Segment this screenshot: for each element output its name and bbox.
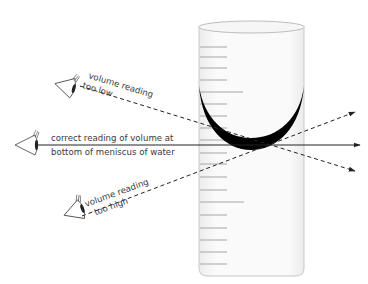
measuring-cylinder (199, 21, 305, 276)
eye-icon-middle (15, 130, 39, 155)
eye-icon-top (52, 69, 80, 99)
label-too-high: volume reading too high (83, 176, 153, 219)
label-correct-line1: correct reading of volume at (51, 133, 174, 143)
label-correct-line2: bottom of meniscus of water (51, 147, 175, 157)
label-too-low: volume reading too low (81, 69, 154, 110)
meniscus-diagram: volume reading too low correct reading o… (0, 0, 368, 284)
